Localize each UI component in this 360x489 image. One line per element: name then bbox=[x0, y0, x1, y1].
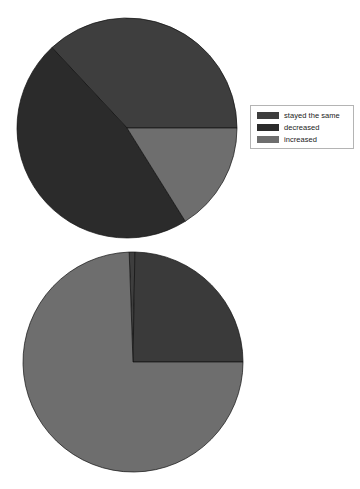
legend-swatch-decreased bbox=[257, 124, 279, 131]
legend-item-increased[interactable]: increased bbox=[255, 134, 348, 144]
pie-chart-bottom bbox=[0, 245, 360, 489]
legend-item-decreased[interactable]: decreased bbox=[255, 122, 348, 132]
legend-label-increased: increased bbox=[284, 135, 317, 144]
chart-panel-top: stayed the same decreased increased bbox=[0, 0, 360, 244]
legend-swatch-increased bbox=[257, 136, 279, 143]
pie-slice[interactable] bbox=[133, 252, 243, 362]
legend-item-stayed-the-same[interactable]: stayed the same bbox=[255, 110, 348, 120]
legend-swatch-stayed-the-same bbox=[257, 112, 279, 119]
pie-chart-figure: stayed the same decreased increased stay… bbox=[0, 0, 360, 489]
legend-label-decreased: decreased bbox=[284, 123, 319, 132]
legend-label-stayed-the-same: stayed the same bbox=[284, 111, 340, 120]
chart-panel-bottom: stay the same decrease increase bbox=[0, 245, 360, 489]
legend-top: stayed the same decreased increased bbox=[250, 105, 354, 149]
